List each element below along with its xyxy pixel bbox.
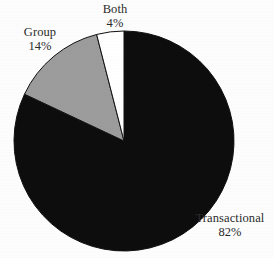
pie-label-transactional: Transactional 82% (186, 212, 274, 239)
pie-label-transactional-percent: 82% (186, 226, 274, 240)
pie-label-both-name: Both (84, 3, 146, 17)
pie-label-group-name: Group (4, 26, 76, 40)
pie-label-transactional-name: Transactional (186, 212, 274, 226)
pie-label-both-percent: 4% (84, 17, 146, 31)
pie-label-group-percent: 14% (4, 40, 76, 54)
pie-label-both: Both 4% (84, 3, 146, 30)
pie-chart: Both 4% Group 14% Transactional 82% (0, 0, 274, 258)
pie-label-group: Group 14% (4, 26, 76, 53)
